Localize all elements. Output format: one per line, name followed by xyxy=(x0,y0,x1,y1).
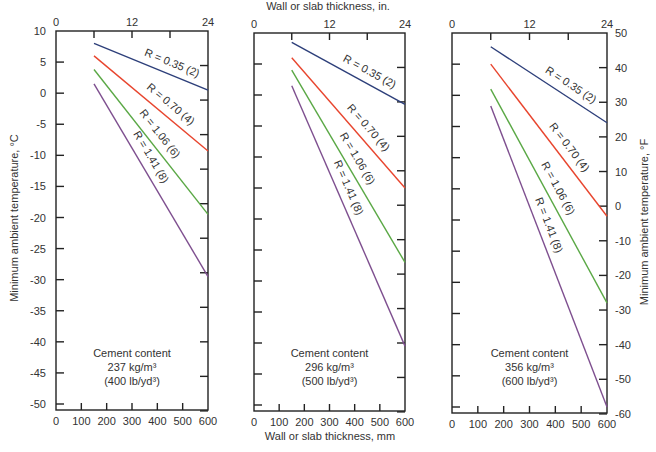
x-tick-label-mm: 200 xyxy=(295,416,313,428)
x-tick-label-in: 12 xyxy=(126,16,138,28)
cement-note-title: Cement content xyxy=(93,347,171,359)
x-tick-label-mm: 400 xyxy=(546,418,564,430)
y-tick-label-f: -60 xyxy=(615,408,631,420)
y-tick-label-f: -40 xyxy=(615,339,631,351)
y-tick-label-f: -30 xyxy=(615,304,631,316)
y-tick-label-c: -50 xyxy=(30,398,46,410)
y-tick-label-c: -30 xyxy=(30,274,46,286)
x-tick-label-mm: 200 xyxy=(494,418,512,430)
x-tick-label-mm: 100 xyxy=(469,418,487,430)
x-tick-label-mm: 600 xyxy=(598,418,616,430)
x-tick-label-in: 12 xyxy=(323,18,335,30)
x-tick-label-mm: 500 xyxy=(173,415,191,427)
x-tick-label-in: 0 xyxy=(53,16,59,28)
y-tick-label-c: -20 xyxy=(30,212,46,224)
y-tick-label-c: -5 xyxy=(36,118,46,130)
cement-note-metric: 356 kg/m³ xyxy=(505,361,554,373)
x-tick-label-in: 12 xyxy=(523,18,535,30)
y-tick-label-c: -45 xyxy=(30,367,46,379)
x-tick-label-mm: 300 xyxy=(520,418,538,430)
y-tick-label-c: 0 xyxy=(40,87,46,99)
bottom-axis-title: Wall or slab thickness, mm xyxy=(265,430,395,442)
x-tick-label-mm: 200 xyxy=(97,415,115,427)
x-tick-label-in: 0 xyxy=(449,18,455,30)
chart-figure: Wall or slab thickness, in.Wall or slab … xyxy=(0,0,656,452)
cement-note-title: Cement content xyxy=(291,347,369,359)
y-tick-label-c: -15 xyxy=(30,180,46,192)
left-axis-title: Minimum ambient temperature, °C xyxy=(8,134,20,302)
x-tick-label-in: 0 xyxy=(251,18,257,30)
y-tick-label-f: 50 xyxy=(615,27,627,39)
y-tick-label-c: -35 xyxy=(30,305,46,317)
x-tick-label-mm: 500 xyxy=(572,418,590,430)
series-line xyxy=(292,86,405,346)
x-tick-label-mm: 0 xyxy=(449,418,455,430)
x-tick-label-mm: 100 xyxy=(72,415,90,427)
cement-note-imperial: (600 lb/yd³) xyxy=(502,375,558,387)
top-axis-title: Wall or slab thickness, in. xyxy=(266,0,390,12)
series-line xyxy=(491,47,607,123)
x-tick-label-mm: 300 xyxy=(320,416,338,428)
x-tick-label-in: 24 xyxy=(399,18,411,30)
cement-note-metric: 237 kg/m³ xyxy=(108,361,157,373)
x-tick-label-mm: 600 xyxy=(396,416,414,428)
right-axis-title: Minimum ambient temperature, °F xyxy=(638,139,650,306)
series-line xyxy=(491,64,607,216)
y-tick-label-f: 0 xyxy=(615,200,621,212)
y-tick-label-f: -50 xyxy=(615,373,631,385)
series-line xyxy=(491,89,607,303)
y-tick-label-f: 40 xyxy=(615,62,627,74)
cement-note-imperial: (500 lb/yd³) xyxy=(302,375,358,387)
x-tick-label-mm: 300 xyxy=(123,415,141,427)
y-tick-label-f: -20 xyxy=(615,269,631,281)
cement-note-title: Cement content xyxy=(491,347,569,359)
x-tick-label-mm: 0 xyxy=(53,415,59,427)
cement-note-metric: 296 kg/m³ xyxy=(305,361,354,373)
x-tick-label-mm: 500 xyxy=(371,416,389,428)
x-tick-label-in: 24 xyxy=(601,18,613,30)
cement-note-imperial: (400 lb/yd³) xyxy=(104,375,160,387)
y-tick-label-c: 10 xyxy=(34,25,46,37)
y-tick-label-f: -10 xyxy=(615,235,631,247)
y-tick-label-c: 5 xyxy=(40,56,46,68)
x-tick-label-mm: 100 xyxy=(270,416,288,428)
y-tick-label-f: 20 xyxy=(615,131,627,143)
y-tick-label-f: 10 xyxy=(615,166,627,178)
x-tick-label-mm: 400 xyxy=(148,415,166,427)
x-tick-label-mm: 600 xyxy=(199,415,217,427)
x-tick-label-mm: 0 xyxy=(251,416,257,428)
series-label: R = 0.35 (2) xyxy=(143,46,202,79)
x-tick-label-mm: 400 xyxy=(345,416,363,428)
y-tick-label-c: -25 xyxy=(30,243,46,255)
series-line xyxy=(292,70,405,262)
x-tick-label-in: 24 xyxy=(202,16,214,28)
y-tick-label-c: -40 xyxy=(30,336,46,348)
y-tick-label-f: 30 xyxy=(615,96,627,108)
y-tick-label-c: -10 xyxy=(30,149,46,161)
